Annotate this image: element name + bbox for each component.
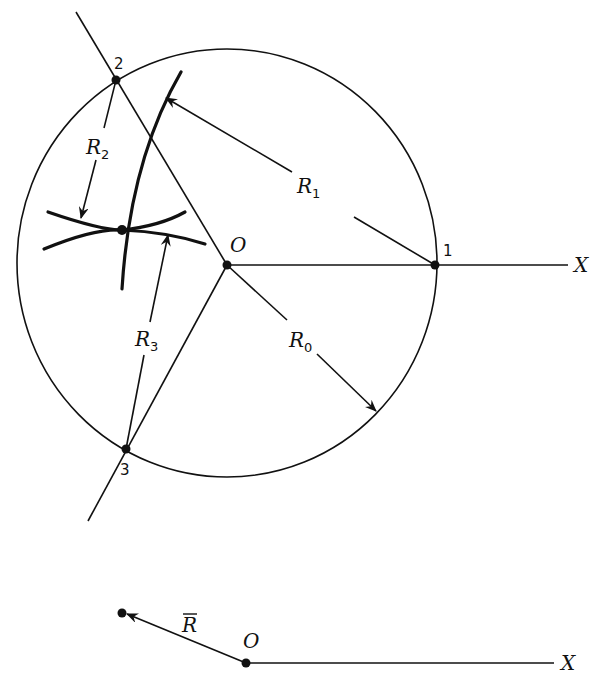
radius-r1-arrow-b — [166, 98, 292, 172]
label-r0: R 0 — [288, 328, 312, 355]
point-2-label: 2 — [114, 55, 124, 73]
inset-origin-point — [242, 659, 251, 668]
radius-r2-arrow-b — [81, 160, 96, 218]
origin-label: O — [230, 233, 246, 257]
point-1 — [431, 261, 440, 270]
arc-r2 — [48, 212, 185, 230]
svg-text:R: R — [181, 613, 197, 637]
radius-r0-arrow-a — [227, 265, 287, 320]
svg-text:R: R — [288, 328, 304, 352]
radius-r3-arrow-b — [150, 235, 168, 322]
point-1-label: 1 — [443, 242, 453, 260]
point-3 — [122, 445, 131, 454]
inset-x-axis-label: X — [559, 651, 576, 675]
inset-origin-label: O — [243, 629, 259, 653]
label-r2: R 2 — [85, 135, 109, 162]
line-o-to-3 — [88, 265, 227, 521]
inset-vector-tip-point — [118, 609, 127, 618]
locus-construction-diagram: X O 1 2 3 R 0 R 1 R 2 R 3 X — [0, 0, 605, 690]
point-3-label: 3 — [120, 461, 130, 479]
svg-text:1: 1 — [312, 186, 320, 201]
x-axis-label: X — [572, 253, 589, 277]
point-intersection — [117, 225, 127, 235]
svg-text:R: R — [134, 327, 150, 351]
radius-r1-arrow-a — [354, 217, 435, 265]
svg-text:0: 0 — [304, 340, 312, 355]
svg-text:R: R — [296, 174, 312, 198]
label-r3: R 3 — [134, 327, 158, 354]
point-2 — [112, 76, 121, 85]
svg-text:R: R — [85, 135, 101, 159]
label-r1: R 1 — [296, 174, 320, 201]
inset-vector-label: R — [181, 613, 197, 637]
svg-text:3: 3 — [150, 339, 158, 354]
svg-text:2: 2 — [101, 147, 109, 162]
point-origin — [223, 261, 232, 270]
radius-r0-arrow-b — [317, 354, 376, 411]
